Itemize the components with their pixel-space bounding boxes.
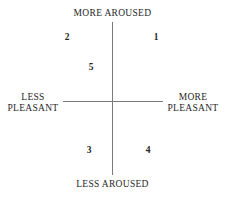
axis-label-less-pleasant: LESS PLEASANT xyxy=(2,92,64,114)
arousal-axis-line xyxy=(112,22,113,175)
axis-label-more-pleasant: MORE PLEASANT xyxy=(162,92,224,114)
axis-label-more-pleasant-line1: MORE xyxy=(162,92,224,103)
axis-label-less-pleasant-line2: PLEASANT xyxy=(2,103,64,114)
pleasantness-axis-line xyxy=(63,101,163,102)
quadrant-marker-1: 1 xyxy=(150,32,162,42)
axis-label-less-pleasant-line1: LESS xyxy=(2,92,64,103)
axis-label-more-aroused: MORE AROUSED xyxy=(0,8,225,19)
quadrant-marker-2: 2 xyxy=(61,32,73,42)
quadrant-marker-5: 5 xyxy=(85,62,97,72)
affect-quadrant-diagram: MORE AROUSED LESS AROUSED LESS PLEASANT … xyxy=(0,0,225,199)
quadrant-marker-3: 3 xyxy=(83,145,95,155)
axis-label-less-aroused: LESS AROUSED xyxy=(0,179,225,190)
axis-label-more-pleasant-line2: PLEASANT xyxy=(162,103,224,114)
quadrant-marker-4: 4 xyxy=(142,145,154,155)
